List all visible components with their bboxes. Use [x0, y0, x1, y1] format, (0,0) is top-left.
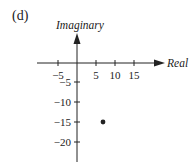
- argand-diagram: (d) Imaginary Real −5 5 10 15 −5 −10 −15…: [0, 0, 194, 168]
- data-point: [101, 120, 106, 125]
- x-axis-label: Real: [166, 57, 188, 69]
- y-tick-label: −10: [54, 96, 72, 108]
- y-tick-label: −15: [54, 116, 72, 128]
- x-tick-label: 10: [110, 69, 122, 81]
- panel-label: (d): [12, 8, 29, 24]
- y-axis-label: Imaginary: [55, 19, 105, 32]
- y-axis-arrow-icon: [74, 33, 81, 44]
- y-tick-label: −5: [59, 76, 71, 88]
- x-axis-arrow-icon: [154, 60, 165, 67]
- y-tick-label: −20: [54, 136, 72, 148]
- x-tick-label: 5: [93, 69, 99, 81]
- x-tick-label: 15: [129, 69, 141, 81]
